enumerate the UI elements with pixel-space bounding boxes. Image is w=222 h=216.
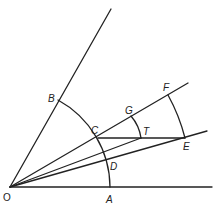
label-O: O bbox=[3, 192, 11, 203]
label-F: F bbox=[163, 82, 170, 93]
segment-OT bbox=[10, 138, 141, 187]
arc-FE bbox=[168, 95, 185, 138]
ray-OF bbox=[10, 83, 188, 187]
geometry-diagram: O A B C D E F G T bbox=[0, 0, 222, 216]
ray-OE bbox=[10, 131, 207, 187]
label-D: D bbox=[110, 161, 117, 172]
label-E: E bbox=[183, 141, 190, 152]
ray-OB bbox=[10, 9, 111, 187]
label-T: T bbox=[143, 126, 150, 137]
label-A: A bbox=[105, 194, 113, 205]
arc-GT bbox=[131, 116, 141, 138]
label-G: G bbox=[125, 105, 133, 116]
label-B: B bbox=[48, 93, 55, 104]
label-C: C bbox=[91, 125, 99, 136]
